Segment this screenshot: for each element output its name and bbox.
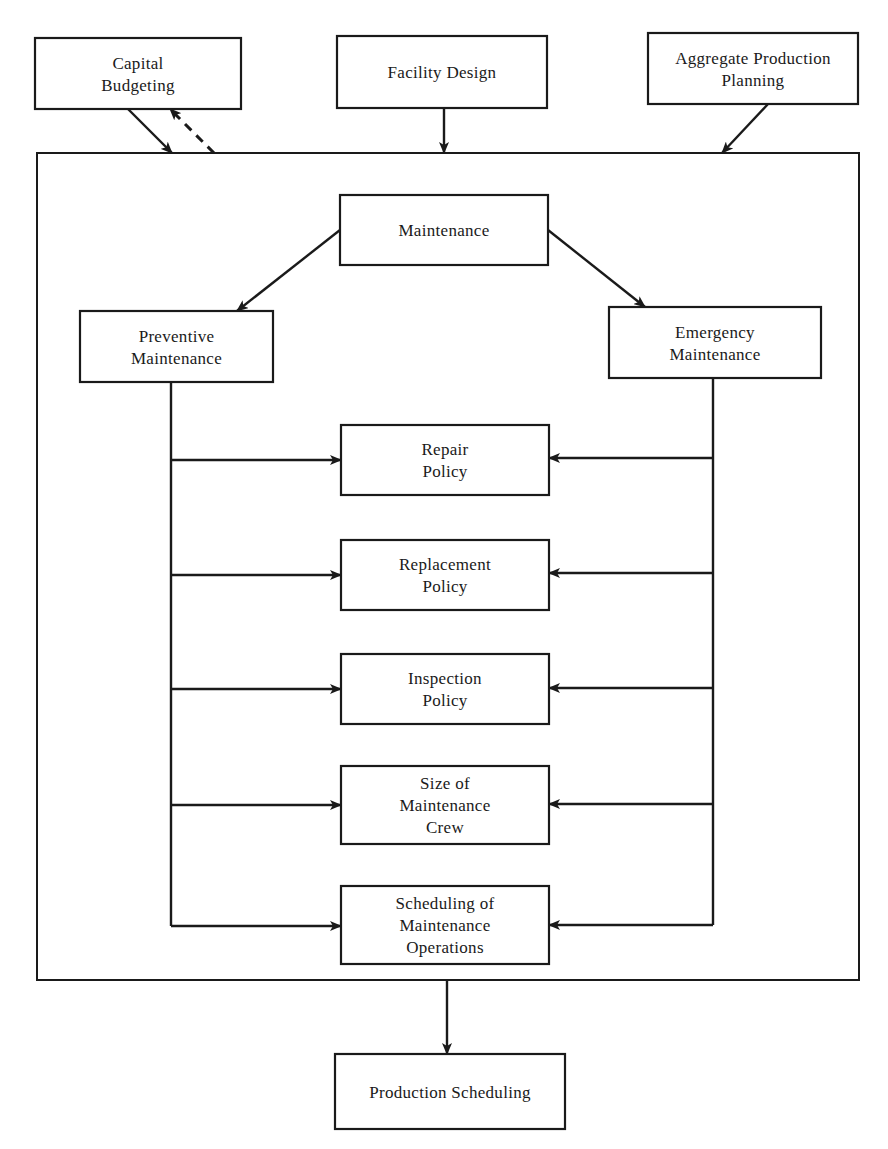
size-of-maintenance-crew-label: Size of (420, 774, 470, 793)
arrow-frame-to-capital (170, 109, 214, 153)
node-capital-budgeting: CapitalBudgeting (35, 38, 241, 109)
aggregate-production-planning-label: Aggregate Production (675, 49, 831, 68)
node-size-of-maintenance-crew: Size ofMaintenanceCrew (341, 766, 549, 844)
maintenance-label: Maintenance (398, 221, 489, 240)
preventive-maintenance-box (80, 311, 273, 382)
size-of-maintenance-crew-label: Crew (426, 818, 464, 837)
replacement-policy-label: Policy (422, 577, 467, 596)
capital-budgeting-label: Budgeting (101, 76, 175, 95)
inspection-policy-label: Inspection (408, 669, 482, 688)
replacement-policy-box (341, 540, 549, 610)
node-inspection-policy: InspectionPolicy (341, 654, 549, 724)
node-emergency-maintenance: EmergencyMaintenance (609, 307, 821, 378)
arrow-aggregate-to-frame (722, 104, 768, 153)
arrow-capital-to-frame (128, 109, 172, 153)
scheduling-of-maintenance-operations-label: Maintenance (399, 916, 490, 935)
node-maintenance: Maintenance (340, 195, 548, 265)
capital-budgeting-label: Capital (112, 54, 163, 73)
inspection-policy-label: Policy (422, 691, 467, 710)
emergency-maintenance-label: Maintenance (669, 345, 760, 364)
scheduling-of-maintenance-operations-label: Operations (406, 938, 484, 957)
node-preventive-maintenance: PreventiveMaintenance (80, 311, 273, 382)
repair-policy-label: Repair (421, 440, 468, 459)
repair-policy-label: Policy (422, 462, 467, 481)
emergency-maintenance-label: Emergency (675, 323, 755, 342)
size-of-maintenance-crew-label: Maintenance (399, 796, 490, 815)
emergency-maintenance-box (609, 307, 821, 378)
node-replacement-policy: ReplacementPolicy (341, 540, 549, 610)
node-facility-design: Facility Design (337, 36, 547, 108)
arrow-maintenance-to-emergency (548, 230, 645, 307)
preventive-maintenance-label: Maintenance (131, 349, 222, 368)
maintenance-diagram: CapitalBudgetingFacility DesignAggregate… (0, 0, 888, 1149)
inspection-policy-box (341, 654, 549, 724)
arrow-maintenance-to-preventive (237, 230, 340, 311)
scheduling-of-maintenance-operations-label: Scheduling of (396, 894, 495, 913)
node-scheduling-of-maintenance-operations: Scheduling ofMaintenanceOperations (341, 886, 549, 964)
replacement-policy-label: Replacement (399, 555, 491, 574)
repair-policy-box (341, 425, 549, 495)
node-production-scheduling: Production Scheduling (335, 1054, 565, 1129)
node-aggregate-production-planning: Aggregate ProductionPlanning (648, 33, 858, 104)
capital-budgeting-box (35, 38, 241, 109)
node-repair-policy: RepairPolicy (341, 425, 549, 495)
nodes-layer: CapitalBudgetingFacility DesignAggregate… (35, 33, 858, 1129)
production-scheduling-label: Production Scheduling (369, 1083, 531, 1102)
aggregate-production-planning-label: Planning (722, 71, 785, 90)
preventive-maintenance-label: Preventive (139, 327, 215, 346)
aggregate-production-planning-box (648, 33, 858, 104)
facility-design-label: Facility Design (388, 63, 497, 82)
